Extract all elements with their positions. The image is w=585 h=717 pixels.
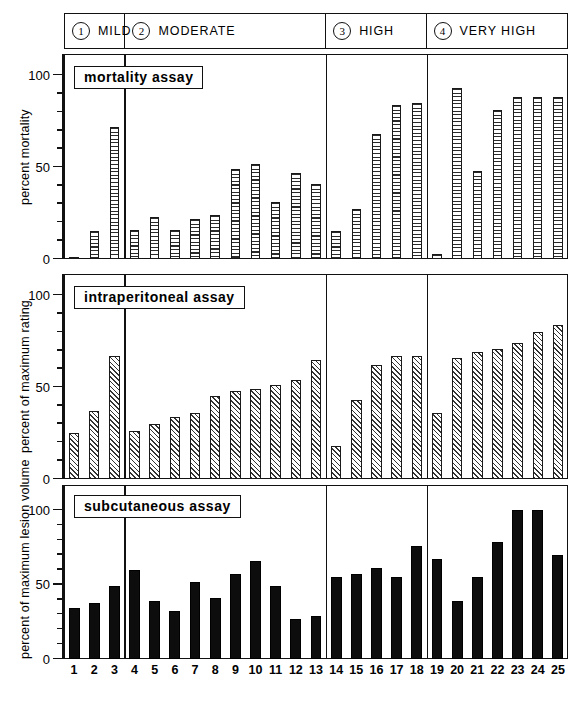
x-tick-label-20: 20 [450, 663, 464, 677]
y-tick-100 [53, 74, 64, 76]
x-tick-label-25: 25 [551, 663, 565, 677]
severity-cell-moderate[interactable]: 2MODERATE [125, 14, 326, 48]
bar-mortality-18 [412, 103, 421, 259]
bar-intraperitoneal-12 [291, 380, 301, 479]
bar-intraperitoneal-15 [351, 400, 361, 479]
y-tick-10 [57, 643, 64, 645]
x-tick-label-11: 11 [269, 663, 282, 677]
y-tick-label-100: 100 [28, 67, 50, 82]
severity-label: MODERATE [158, 24, 235, 38]
bar-intraperitoneal-21 [472, 352, 482, 479]
bar-intraperitoneal-11 [270, 385, 280, 479]
bar-subcutaneous-19 [432, 559, 443, 659]
y-tick-60 [57, 367, 64, 369]
x-tick-label-4: 4 [131, 663, 138, 677]
bar-intraperitoneal-5 [149, 424, 159, 479]
y-tick-50 [53, 166, 64, 168]
group-separator-2 [326, 54, 327, 259]
bar-intraperitoneal-10 [250, 389, 260, 479]
figure-root: 1MILD2MODERATE3HIGH4VERY HIGH 050100 per… [0, 0, 585, 717]
y-axis-title-mortality: percent mortality [18, 109, 32, 205]
bar-subcutaneous-1 [69, 608, 80, 659]
bar-subcutaneous-6 [169, 611, 180, 659]
group-separator-2 [326, 485, 327, 659]
group-separator-3 [427, 54, 428, 259]
y-tick-100 [53, 294, 64, 296]
severity-header: 1MILD2MODERATE3HIGH4VERY HIGH [64, 13, 568, 49]
x-tick-label-19: 19 [430, 663, 444, 677]
bar-subcutaneous-18 [411, 546, 422, 659]
bar-subcutaneous-25 [552, 555, 563, 659]
y-axis-title-subcutaneous: percent of maximum lesion volume [18, 459, 32, 659]
y-tick-100 [53, 509, 64, 511]
x-tick-label-1: 1 [71, 663, 78, 677]
bar-subcutaneous-15 [351, 574, 362, 659]
x-tick-label-23: 23 [511, 663, 525, 677]
bar-intraperitoneal-7 [190, 413, 200, 479]
y-tick-label-50: 50 [36, 379, 50, 394]
x-tick-label-18: 18 [410, 663, 424, 677]
caption-mortality-assay: mortality assay [74, 66, 203, 89]
y-tick-label-0: 0 [43, 251, 50, 266]
y-tick-40 [57, 404, 64, 406]
bar-mortality-5 [150, 217, 159, 259]
severity-cell-mild[interactable]: 1MILD [65, 14, 125, 48]
bar-mortality-21 [473, 171, 482, 259]
x-tick-label-24: 24 [531, 663, 545, 677]
severity-label: HIGH [359, 24, 394, 38]
y-tick-20 [57, 221, 64, 223]
y-tick-30 [57, 202, 64, 204]
y-tick-60 [57, 147, 64, 149]
bar-subcutaneous-7 [190, 582, 201, 659]
bar-intraperitoneal-4 [129, 431, 139, 479]
bar-intraperitoneal-16 [371, 365, 381, 479]
y-tick-30 [57, 422, 64, 424]
bar-intraperitoneal-6 [170, 417, 180, 479]
x-tick-label-8: 8 [212, 663, 219, 677]
y-tick-label-0: 0 [43, 471, 50, 486]
bar-intraperitoneal-3 [109, 356, 119, 479]
x-tick-label-6: 6 [171, 663, 178, 677]
group-separator-3 [427, 485, 428, 659]
y-tick-40 [57, 598, 64, 600]
bar-intraperitoneal-2 [89, 411, 99, 479]
y-tick-0 [53, 658, 64, 660]
severity-number-circle-icon: 1 [72, 22, 90, 40]
severity-cell-very-high[interactable]: 4VERY HIGH [427, 14, 567, 48]
x-tick-label-14: 14 [329, 663, 343, 677]
y-tick-90 [57, 524, 64, 526]
bar-subcutaneous-12 [290, 619, 301, 659]
y-tick-50 [53, 386, 64, 388]
bar-mortality-8 [210, 215, 219, 259]
y-tick-0 [53, 258, 64, 260]
bar-mortality-17 [392, 105, 401, 259]
bar-mortality-16 [372, 134, 381, 259]
bar-intraperitoneal-23 [512, 343, 522, 479]
bar-subcutaneous-14 [331, 577, 342, 659]
bar-mortality-20 [452, 88, 461, 259]
bar-subcutaneous-23 [512, 510, 523, 659]
severity-number-circle-icon: 2 [132, 22, 150, 40]
bar-intraperitoneal-9 [230, 391, 240, 479]
bar-subcutaneous-22 [492, 542, 503, 659]
y-tick-90 [57, 312, 64, 314]
y-tick-80 [57, 331, 64, 333]
bar-intraperitoneal-25 [553, 325, 563, 479]
bar-subcutaneous-17 [391, 577, 402, 659]
severity-label: VERY HIGH [460, 24, 536, 38]
bar-intraperitoneal-14 [331, 446, 341, 479]
caption-subcutaneous-assay: subcutaneous assay [74, 495, 241, 518]
x-tick-label-2: 2 [91, 663, 98, 677]
severity-cell-high[interactable]: 3HIGH [326, 14, 426, 48]
bar-subcutaneous-3 [109, 586, 120, 659]
x-tick-label-13: 13 [309, 663, 323, 677]
y-tick-60 [57, 568, 64, 570]
bar-subcutaneous-8 [210, 598, 221, 659]
bar-subcutaneous-10 [250, 561, 261, 659]
bar-mortality-2 [90, 231, 99, 259]
bar-mortality-12 [291, 173, 300, 259]
y-tick-40 [57, 184, 64, 186]
y-tick-20 [57, 441, 64, 443]
bar-mortality-11 [271, 202, 280, 259]
x-axis-tick-labels: 1234567891011121314151617181920212223242… [64, 663, 568, 685]
